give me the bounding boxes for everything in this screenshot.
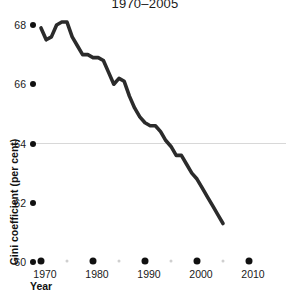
y-tick-dot-66 bbox=[30, 81, 36, 87]
x-tick-minor-dot-1985 bbox=[118, 260, 121, 263]
x-tick-label-1980: 1980 bbox=[85, 268, 108, 280]
chart-container: 1970–2005 6866646260 1970198019902000201… bbox=[0, 0, 290, 292]
x-tick-dot-1990 bbox=[142, 258, 149, 265]
x-tick-minor-dot-1975 bbox=[66, 260, 69, 263]
x-tick-minor-dot-1995 bbox=[170, 260, 173, 263]
x-tick-label-1990: 1990 bbox=[137, 268, 160, 280]
y-axis-title: Gini coefficient (per cent) bbox=[8, 132, 20, 272]
y-tick-label-68: 68 bbox=[0, 19, 26, 31]
y-tick-label-66: 66 bbox=[0, 78, 26, 90]
y-tick-dot-68 bbox=[30, 22, 36, 28]
x-axis-title: Year bbox=[30, 280, 52, 292]
plot-area bbox=[0, 0, 290, 292]
x-tick-dot-2000 bbox=[194, 258, 201, 265]
x-tick-minor-dot-2005 bbox=[222, 260, 225, 263]
x-tick-label-2010: 2010 bbox=[241, 268, 264, 280]
y-tick-dot-60 bbox=[30, 259, 36, 265]
y-tick-dot-62 bbox=[30, 200, 36, 206]
line-chart-svg bbox=[0, 0, 290, 292]
x-tick-dot-2010 bbox=[246, 258, 253, 265]
x-tick-label-2000: 2000 bbox=[189, 268, 212, 280]
x-tick-dot-1970 bbox=[38, 258, 45, 265]
x-tick-dot-1980 bbox=[90, 258, 97, 265]
x-tick-label-1970: 1970 bbox=[33, 268, 56, 280]
gini-series-line bbox=[41, 22, 223, 223]
y-tick-dot-64 bbox=[30, 141, 36, 147]
